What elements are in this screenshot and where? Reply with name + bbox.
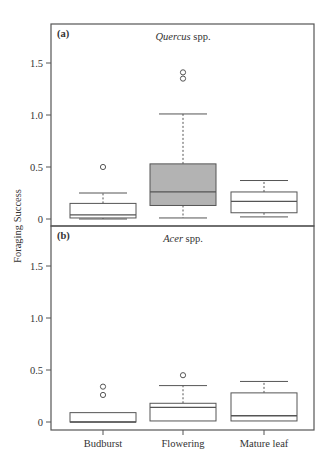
- y-tick-label: 0.5: [30, 162, 43, 173]
- panel-letter: (a): [57, 28, 70, 40]
- y-tick-label: 1.5: [30, 58, 43, 69]
- y-tick-label: 0.5: [30, 365, 43, 376]
- panel-b: (b)Acer spp.00.51.01.5: [30, 226, 314, 430]
- iqr-box: [150, 403, 216, 421]
- outlier-point: [180, 373, 185, 378]
- x-category-label: Flowering: [161, 438, 205, 449]
- panel-title: Quercus spp.: [155, 31, 210, 42]
- chart-canvas: (a)Quercus spp.00.51.01.5(b)Acer spp.00.…: [0, 0, 331, 468]
- y-tick-label: 0: [38, 214, 43, 225]
- panels-group: (a)Quercus spp.00.51.01.5(b)Acer spp.00.…: [30, 24, 314, 430]
- outlier-point: [100, 164, 105, 169]
- y-axis-title: Foraging Success: [12, 189, 23, 263]
- x-category-label: Mature leaf: [240, 438, 289, 449]
- y-tick-label: 0: [38, 417, 43, 428]
- genus-name: Quercus: [155, 31, 190, 42]
- iqr-box: [70, 413, 136, 422]
- box-budburst: [70, 384, 136, 422]
- box-mature-leaf: [231, 181, 297, 217]
- outlier-point: [180, 76, 185, 81]
- x-category-label: Budburst: [84, 438, 123, 449]
- iqr-box: [150, 164, 216, 206]
- iqr-box: [231, 192, 297, 213]
- panel-a: (a)Quercus spp.00.51.01.5: [30, 24, 314, 226]
- outlier-point: [180, 70, 185, 75]
- box-flowering: [150, 70, 216, 218]
- y-tick-label: 1.0: [30, 110, 43, 121]
- iqr-box: [231, 393, 297, 421]
- panel-letter: (b): [57, 230, 70, 242]
- box-mature-leaf: [231, 381, 297, 421]
- genus-name: Acer: [162, 233, 184, 244]
- x-axis: BudburstFloweringMature leaf: [84, 430, 289, 449]
- iqr-box: [70, 203, 136, 218]
- box-budburst: [70, 164, 136, 219]
- outlier-point: [100, 384, 105, 389]
- species-suffix: spp.: [183, 233, 203, 244]
- panel-title: Acer spp.: [162, 233, 203, 244]
- outlier-point: [100, 392, 105, 397]
- box-flowering: [150, 373, 216, 421]
- species-suffix: spp.: [191, 31, 211, 42]
- y-tick-label: 1.0: [30, 313, 43, 324]
- box-plot-figure: (a)Quercus spp.00.51.01.5(b)Acer spp.00.…: [0, 0, 331, 468]
- y-tick-label: 1.5: [30, 261, 43, 272]
